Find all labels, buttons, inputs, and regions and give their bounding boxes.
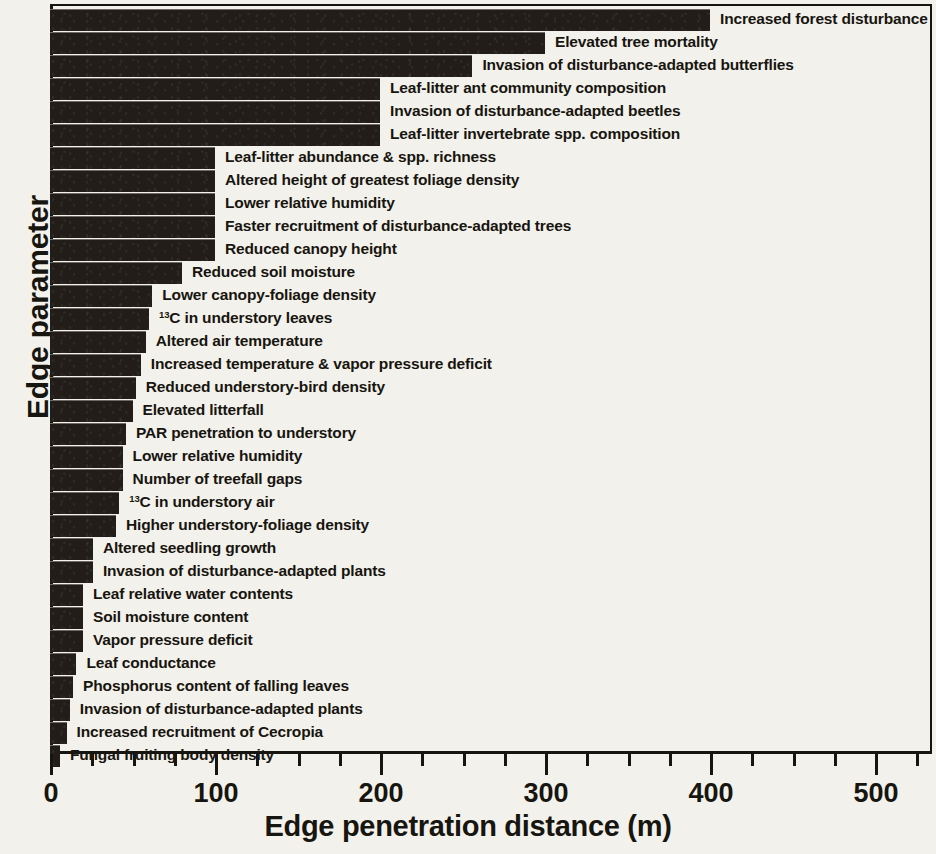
- bar-label: Increased recruitment of Cecropia: [77, 723, 324, 741]
- bar: [50, 469, 123, 491]
- bar-row: Number of treefall gaps: [50, 468, 932, 493]
- x-axis-minor-tick: [174, 754, 177, 766]
- bar-label: Elevated litterfall: [143, 401, 264, 419]
- bar-label: Lower relative humidity: [133, 447, 303, 465]
- bar: [50, 170, 215, 192]
- bar-row: Leaf conductance: [50, 652, 932, 677]
- bar: [50, 9, 710, 31]
- bar: [50, 722, 67, 744]
- bar-label: Altered seedling growth: [103, 539, 276, 557]
- bar-row: Invasion of disturbance-adapted beetles: [50, 100, 932, 125]
- bar-label: PAR penetration to understory: [136, 424, 356, 442]
- x-axis-major-tick: [545, 754, 548, 775]
- bar-row: Reduced soil moisture: [50, 261, 932, 286]
- bar: [50, 676, 73, 698]
- bar-label: Soil moisture content: [93, 608, 248, 626]
- bar-label: Reduced canopy height: [225, 240, 397, 258]
- x-axis-minor-tick: [298, 754, 301, 766]
- bar-row: Invasion of disturbance-adapted plants: [50, 698, 932, 723]
- x-axis-minor-tick: [834, 754, 837, 766]
- x-axis-minor-tick: [628, 754, 631, 766]
- x-axis-minor-tick: [669, 754, 672, 766]
- bar-row: Leaf relative water contents: [50, 583, 932, 608]
- bar: [50, 331, 146, 353]
- bar-label: Increased temperature & vapor pressure d…: [151, 355, 492, 373]
- bar-label: Phosphorus content of falling leaves: [83, 677, 349, 695]
- bar-row: Vapor pressure deficit: [50, 629, 932, 654]
- x-axis-tick-label: 500: [853, 778, 898, 809]
- x-axis-tick-label: 400: [688, 778, 733, 809]
- bar-row: Elevated tree mortality: [50, 31, 932, 56]
- bar-label: Altered height of greatest foliage densi…: [225, 171, 519, 189]
- bar-label: Reduced understory-bird density: [146, 378, 385, 396]
- bar: [50, 285, 152, 307]
- plot-area: Increased forest disturbanceElevated tre…: [50, 4, 932, 754]
- x-axis-minor-tick: [751, 754, 754, 766]
- bar-row: Higher understory-foliage density: [50, 514, 932, 539]
- bar-label: Leaf-litter invertebrate spp. compositio…: [390, 125, 680, 143]
- bar: [50, 538, 93, 560]
- bar-label: Leaf-litter abundance & spp. richness: [225, 148, 496, 166]
- bar-label: Invasion of disturbance-adapted plants: [80, 700, 363, 718]
- x-axis-minor-tick: [504, 754, 507, 766]
- bar-row: Increased forest disturbance: [50, 8, 932, 33]
- bar-label: 13C in understory leaves: [159, 309, 332, 327]
- x-axis-minor-tick: [586, 754, 589, 766]
- x-axis-major-tick: [215, 754, 218, 775]
- bar-label: Invasion of disturbance-adapted butterfl…: [482, 56, 793, 74]
- bar: [50, 584, 83, 606]
- x-axis-minor-tick: [256, 754, 259, 766]
- bar: [50, 423, 126, 445]
- x-axis-tick-label: 100: [193, 778, 238, 809]
- bar-row: Lower relative humidity: [50, 192, 932, 217]
- bar: [50, 354, 141, 376]
- bar-label: 13C in understory air: [129, 493, 274, 511]
- bar: [50, 492, 119, 514]
- bar-label: Lower relative humidity: [225, 194, 395, 212]
- bar-row: 13C in understory air: [50, 491, 932, 516]
- bar: [50, 561, 93, 583]
- bar-label: Leaf-litter ant community composition: [390, 79, 666, 97]
- x-axis-minor-tick: [916, 754, 919, 766]
- bar: [50, 377, 136, 399]
- bar: [50, 630, 83, 652]
- x-axis-major-tick: [50, 754, 53, 775]
- bar: [50, 446, 123, 468]
- bar-label: Reduced soil moisture: [192, 263, 355, 281]
- x-axis-minor-tick: [339, 754, 342, 766]
- bar-row: Reduced canopy height: [50, 238, 932, 263]
- bar-row: Soil moisture content: [50, 606, 932, 631]
- bar-row: Leaf-litter abundance & spp. richness: [50, 146, 932, 171]
- bar-row: Faster recruitment of disturbance-adapte…: [50, 215, 932, 240]
- bar-label: Invasion of disturbance-adapted plants: [103, 562, 386, 580]
- bar-label: Leaf conductance: [86, 654, 215, 672]
- isotope-superscript: 13: [129, 493, 139, 504]
- x-axis: 0100200300400500: [50, 754, 932, 804]
- bar-label: Vapor pressure deficit: [93, 631, 253, 649]
- bar-row: 13C in understory leaves: [50, 307, 932, 332]
- chart-page: Edge parameter Increased forest disturba…: [0, 0, 936, 854]
- x-axis-minor-tick: [463, 754, 466, 766]
- bar-row: Elevated litterfall: [50, 399, 932, 424]
- bar-row: Altered seedling growth: [50, 537, 932, 562]
- bar-label: Invasion of disturbance-adapted beetles: [390, 102, 680, 120]
- isotope-superscript: 13: [159, 309, 169, 320]
- bar-label: Higher understory-foliage density: [126, 516, 369, 534]
- x-axis-minor-tick: [91, 754, 94, 766]
- x-axis-minor-tick: [133, 754, 136, 766]
- bar-label: Altered air temperature: [156, 332, 323, 350]
- x-axis-tick-label: 300: [523, 778, 568, 809]
- bar-label: Elevated tree mortality: [555, 33, 718, 51]
- bar: [50, 193, 215, 215]
- bar: [50, 239, 215, 261]
- bar-row: Reduced understory-bird density: [50, 376, 932, 401]
- x-axis-major-tick: [875, 754, 878, 775]
- x-axis-title: Edge penetration distance (m): [0, 810, 936, 843]
- bar: [50, 124, 380, 146]
- bar-row: Leaf-litter ant community composition: [50, 77, 932, 102]
- bar-row: Lower canopy-foliage density: [50, 284, 932, 309]
- x-axis-tick-label: 0: [43, 778, 58, 809]
- bar-row: PAR penetration to understory: [50, 422, 932, 447]
- bar: [50, 515, 116, 537]
- bar-row: Increased recruitment of Cecropia: [50, 721, 932, 746]
